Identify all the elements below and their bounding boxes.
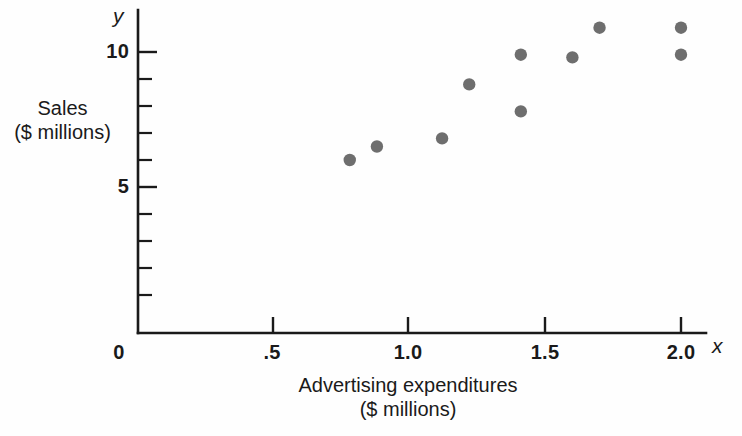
data-point [675,22,687,34]
x-axis-title-line-2: ($ millions) [208,398,608,422]
data-point [463,78,475,90]
data-point [371,140,383,152]
data-point [344,154,356,166]
data-point [675,49,687,61]
y-tick-label-10: 10 [106,40,129,64]
data-points-layer [344,22,688,167]
x-tick-label-0-5: .5 [263,341,280,365]
data-point [436,132,448,144]
data-point [515,49,527,61]
x-tick-label-2-0: 2.0 [667,341,695,365]
x-axis-variable-label: x [712,334,723,359]
data-point [566,51,578,63]
x-tick-label-1-0: 1.0 [394,341,422,365]
x-axis-ticks [273,317,681,333]
y-axis-variable-label: y [113,4,124,29]
x-axis-title-line-1: Advertising expenditures [208,374,608,398]
y-tick-label-5: 5 [118,175,129,199]
data-point [593,22,605,34]
scatter-plot-figure: y x 10 5 0 .5 1.0 1.5 2.0 Sales ($ milli… [0,0,742,436]
y-axis-ticks [138,52,157,295]
y-axis-title: Sales ($ millions) [10,97,115,144]
x-tick-label-0: 0 [113,341,124,365]
y-axis-title-line-2: ($ millions) [10,121,115,145]
x-axis-title: Advertising expenditures ($ millions) [208,374,608,421]
x-tick-label-1-5: 1.5 [531,341,559,365]
data-point [515,105,527,117]
plot-canvas [0,0,742,436]
y-axis-title-line-1: Sales [10,97,115,121]
